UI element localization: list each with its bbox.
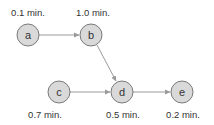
edge-b-to-d — [97, 45, 116, 81]
node-b-label: b — [88, 29, 94, 41]
node-c: c 0.7 min. — [28, 81, 70, 120]
node-b-time: 1.0 min. — [76, 7, 110, 18]
precedence-diagram: a 0.1 min. b 1.0 min. c 0.7 min. d 0.5 m… — [0, 0, 214, 125]
node-a: a 0.1 min. — [11, 7, 45, 46]
node-e: e 0.2 min. — [166, 81, 200, 120]
node-c-label: c — [56, 86, 62, 98]
node-d: d 0.5 min. — [106, 81, 140, 120]
node-e-label: e — [179, 86, 185, 98]
node-c-time: 0.7 min. — [28, 109, 62, 120]
node-a-time: 0.1 min. — [11, 7, 45, 18]
node-e-time: 0.2 min. — [166, 109, 200, 120]
node-d-time: 0.5 min. — [106, 109, 140, 120]
node-b: b 1.0 min. — [76, 7, 110, 46]
node-a-label: a — [25, 29, 32, 41]
node-d-label: d — [119, 86, 125, 98]
